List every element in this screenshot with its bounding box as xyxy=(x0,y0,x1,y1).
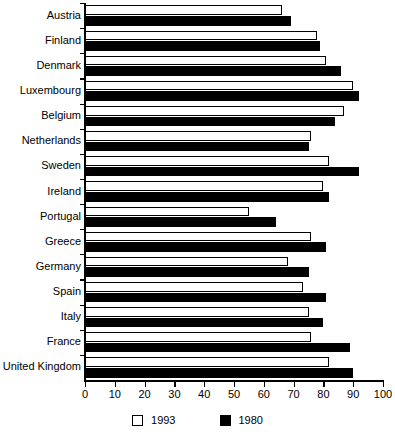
country-bar-group xyxy=(85,3,383,28)
country-bar-group xyxy=(85,279,383,304)
x-axis-tick-label: 60 xyxy=(258,388,270,400)
x-axis-tick-label: 70 xyxy=(287,388,299,400)
x-axis-tick-label: 30 xyxy=(168,388,180,400)
y-axis-tick xyxy=(80,179,85,180)
country-bar-group xyxy=(85,254,383,279)
country-bar-group xyxy=(85,204,383,229)
country-bar-group xyxy=(85,53,383,78)
x-axis-tick-label: 10 xyxy=(109,388,121,400)
bar-1980 xyxy=(85,318,323,328)
bar-1993 xyxy=(85,156,329,166)
x-axis-ticks: 0102030405060708090100 xyxy=(85,381,385,405)
category-label-finland: Finland xyxy=(45,35,81,46)
bar-1980 xyxy=(85,91,359,101)
bar-1980 xyxy=(85,41,320,51)
x-axis-tick xyxy=(264,381,265,387)
bar-1980 xyxy=(85,368,353,378)
category-label-luxembourg: Luxembourg xyxy=(20,85,81,96)
y-axis-tick xyxy=(80,104,85,105)
x-axis-tick xyxy=(234,381,235,387)
x-axis-tick xyxy=(85,381,86,387)
category-label-italy: Italy xyxy=(61,311,81,322)
category-label-france: France xyxy=(47,336,81,347)
country-bar-group xyxy=(85,330,383,355)
bar-1980 xyxy=(85,217,276,227)
x-axis-tick-label: 90 xyxy=(347,388,359,400)
category-label-greece: Greece xyxy=(45,236,81,247)
bar-1993 xyxy=(85,56,326,66)
bar-1993 xyxy=(85,257,288,267)
x-axis-tick-label: 50 xyxy=(228,388,240,400)
legend-label-1993: 1993 xyxy=(151,415,175,426)
bar-1980 xyxy=(85,192,329,202)
bar-1980 xyxy=(85,267,309,277)
category-label-germany: Germany xyxy=(36,261,81,272)
bar-1993 xyxy=(85,31,317,41)
y-axis-tick xyxy=(80,254,85,255)
bar-1980 xyxy=(85,66,341,76)
legend-label-1980: 1980 xyxy=(239,415,263,426)
bar-1993 xyxy=(85,181,323,191)
x-axis-tick xyxy=(174,381,175,387)
category-label-ireland: Ireland xyxy=(47,186,81,197)
x-axis-tick xyxy=(353,381,354,387)
bar-1993 xyxy=(85,332,311,342)
x-axis-tick xyxy=(145,381,146,387)
category-label-portugal: Portugal xyxy=(40,211,81,222)
category-label-belgium: Belgium xyxy=(41,110,81,121)
x-axis-tick xyxy=(294,381,295,387)
x-axis-tick-label: 80 xyxy=(317,388,329,400)
y-axis-tick xyxy=(80,78,85,79)
chart-legend: 1993 1980 xyxy=(0,410,395,430)
country-bar-group xyxy=(85,78,383,103)
x-axis-tick xyxy=(115,381,116,387)
category-label-denmark: Denmark xyxy=(36,60,81,71)
country-bar-group xyxy=(85,104,383,129)
white-square-swatch-icon xyxy=(132,415,143,426)
country-bar-group xyxy=(85,229,383,254)
bar-1993 xyxy=(85,357,329,367)
bar-chart: AustriaFinlandDenmarkLuxembourgBelgiumNe… xyxy=(0,0,395,435)
bar-1980 xyxy=(85,242,326,252)
x-axis-tick-label: 40 xyxy=(198,388,210,400)
y-axis-tick xyxy=(80,330,85,331)
bar-1993 xyxy=(85,207,249,217)
category-axis-labels: AustriaFinlandDenmarkLuxembourgBelgiumNe… xyxy=(0,0,81,381)
x-axis-tick-label: 20 xyxy=(138,388,150,400)
y-axis-tick xyxy=(80,154,85,155)
country-bar-group xyxy=(85,154,383,179)
y-axis-tick xyxy=(80,355,85,356)
bar-1993 xyxy=(85,5,282,15)
y-axis-tick xyxy=(80,28,85,29)
bar-1980 xyxy=(85,16,291,26)
country-bar-group xyxy=(85,305,383,330)
country-bar-group xyxy=(85,179,383,204)
category-label-sweden: Sweden xyxy=(41,160,81,171)
x-axis-tick-label: 100 xyxy=(374,388,392,400)
category-label-united-kingdom: United Kingdom xyxy=(3,361,81,372)
bar-1993 xyxy=(85,307,309,317)
x-axis-tick xyxy=(383,381,384,387)
y-axis-tick xyxy=(80,305,85,306)
y-axis-tick xyxy=(80,3,85,4)
y-axis-tick xyxy=(80,129,85,130)
country-bar-group xyxy=(85,28,383,53)
black-square-swatch-icon xyxy=(220,415,231,426)
bar-1980 xyxy=(85,343,350,353)
y-axis-tick xyxy=(80,229,85,230)
y-axis-tick xyxy=(80,53,85,54)
y-axis-tick xyxy=(80,204,85,205)
x-axis-tick xyxy=(323,381,324,387)
legend-item-1980: 1980 xyxy=(220,415,263,426)
bar-1980 xyxy=(85,167,359,177)
bar-1993 xyxy=(85,282,303,292)
x-axis-tick-label: 0 xyxy=(82,388,88,400)
bar-1980 xyxy=(85,293,326,303)
bar-1993 xyxy=(85,81,353,91)
y-axis-tick xyxy=(80,279,85,280)
x-axis-tick xyxy=(204,381,205,387)
legend-item-1993: 1993 xyxy=(132,415,175,426)
bar-1993 xyxy=(85,106,344,116)
category-label-netherlands: Netherlands xyxy=(22,135,81,146)
country-bar-group xyxy=(85,129,383,154)
